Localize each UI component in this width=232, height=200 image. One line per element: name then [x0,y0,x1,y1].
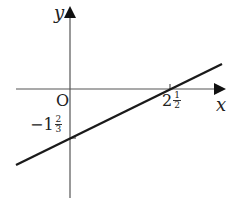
y-axis-label: y [54,4,64,22]
y-intercept-sign: − [30,115,43,134]
origin-label: O [56,93,69,109]
y-axis-arrow-icon [64,6,76,18]
graph-canvas [0,0,232,200]
y-intercept-label: −123 [30,115,62,134]
y-intercept-whole: 1 [43,115,53,134]
y-intercept-fraction: 23 [55,115,63,134]
x-intercept-whole: 2 [162,91,172,110]
x-axis-label: x [216,96,226,114]
x-intercept-fraction: 12 [173,91,181,110]
x-intercept-label: 212 [162,91,181,110]
